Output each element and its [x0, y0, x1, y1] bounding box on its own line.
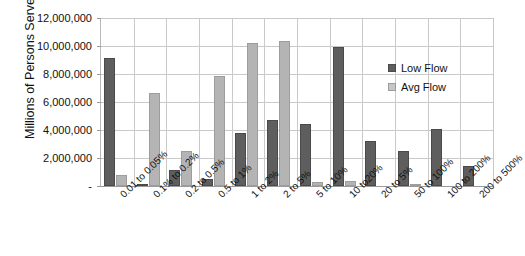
- x-axis-tick-labels: 0.01 to 0.05%0.1% to 0.2%0.2 to 0.5%0.5 …: [100, 186, 492, 256]
- y-axis-tick-label: 12,000,000: [37, 12, 92, 24]
- bar-group: [330, 18, 363, 186]
- y-axis-tick-label: 6,000,000: [43, 96, 92, 108]
- bar-avg-flow[interactable]: [279, 41, 290, 186]
- y-axis-tick-label: 4,000,000: [43, 124, 92, 136]
- bar-group: [232, 18, 265, 186]
- y-axis-tick-label: 8,000,000: [43, 68, 92, 80]
- y-axis-tick-label: 2,000,000: [43, 152, 92, 164]
- legend-item-avg-flow[interactable]: Avg Flow: [388, 81, 447, 93]
- bar-group: [297, 18, 330, 186]
- legend-item-low-flow[interactable]: Low Flow: [388, 62, 447, 74]
- bar-low-flow[interactable]: [104, 58, 115, 186]
- bar-group: [264, 18, 297, 186]
- gridline-vertical: [493, 18, 494, 186]
- y-axis-tick-label: 10,000,000: [37, 40, 92, 52]
- y-axis-tick-labels: 12,000,00010,000,0008,000,0006,000,0004,…: [18, 0, 96, 256]
- legend-swatch-icon: [388, 64, 396, 72]
- legend-label: Low Flow: [401, 62, 447, 74]
- bar-group: [362, 18, 395, 186]
- y-axis-tick-label: -: [88, 180, 92, 192]
- bar-group: [101, 18, 134, 186]
- legend-label: Avg Flow: [401, 81, 446, 93]
- legend-swatch-icon: [388, 83, 396, 91]
- chart-legend: Low Flow Avg Flow: [388, 62, 447, 93]
- bar-group: [395, 18, 428, 186]
